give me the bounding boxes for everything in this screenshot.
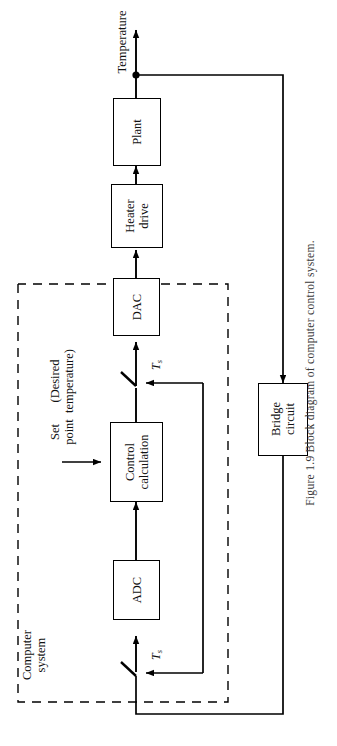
label-computer-system-1: Computer: [20, 630, 34, 680]
label-desired-1: (Desired: [48, 349, 62, 413]
sampler-bottom-blade: [121, 662, 136, 676]
label-sampling-period-bottom: Ts: [149, 650, 164, 660]
block-control-calculation-label: Control calculation: [123, 435, 152, 490]
block-heater-drive-label-2: drive: [137, 199, 151, 232]
figure-caption-text: Figure 1.9 Block diagram of computer con…: [304, 240, 316, 506]
label-sampling-period-top: Ts: [149, 360, 164, 370]
block-bridge-circuit-label: Bridge circuit: [269, 402, 298, 436]
figure-page: Control calculation DAC Heater drive #di…: [0, 0, 337, 746]
block-bridge-label-1: Bridge: [269, 402, 283, 436]
block-control-label-1: Control: [123, 435, 137, 490]
label-computer-system-2: system: [34, 630, 48, 680]
label-temperature: Temperature: [115, 11, 130, 74]
block-heater-drive-label: Heater drive: [123, 199, 152, 232]
block-dac-label: DAC: [130, 294, 145, 320]
block-plant-label: Plant: [130, 119, 145, 145]
label-desired-temperature: (Desired temperature): [48, 349, 77, 413]
label-set-point-1: Set: [48, 419, 62, 445]
label-set-point-2: point: [62, 419, 76, 445]
label-computer-system: Computer system: [20, 630, 49, 680]
label-desired-2: temperature): [62, 349, 76, 413]
block-heater-drive-label-1: Heater: [123, 199, 137, 232]
figure-caption: Figure 1.9 Block diagram of computer con…: [304, 240, 316, 506]
label-ts-top-subscript: s: [154, 360, 164, 363]
sampler-top-blade: [121, 372, 136, 386]
label-ts-bottom-symbol: T: [149, 653, 163, 660]
label-set-point: Set point: [48, 419, 77, 445]
label-ts-top-symbol: T: [149, 363, 163, 370]
label-ts-bottom-subscript: s: [154, 650, 164, 653]
block-adc-label: ADC: [130, 577, 145, 603]
block-bridge-label-2: circuit: [283, 402, 297, 436]
block-control-label-2: calculation: [137, 435, 151, 490]
